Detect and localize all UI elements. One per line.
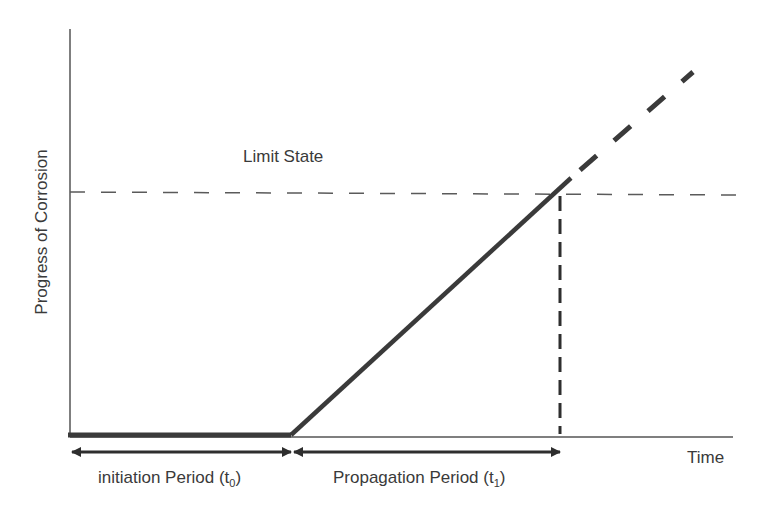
initiation-text: initiation Period (t [98,468,229,487]
initiation-period-label: initiation Period (t0) [98,468,241,489]
propagation-close: ) [500,468,506,487]
y-axis-label: Progress of Corrosion [32,149,52,314]
propagation-period-label: Propagation Period (t1) [333,468,505,489]
limit-state-line [70,192,736,195]
x-axis-label: Time [687,448,724,468]
corrosion-diagram-canvas [0,0,762,515]
propagation-text: Propagation Period (t [333,468,494,487]
propagation-curve [291,178,571,435]
extrapolation-curve [571,72,693,178]
initiation-close: ) [235,468,241,487]
limit-state-label: Limit State [243,147,323,167]
